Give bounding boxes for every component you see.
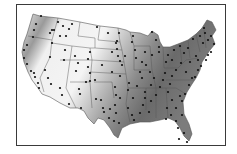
station-point <box>171 59 173 61</box>
station-point <box>127 89 129 91</box>
station-point <box>119 97 121 99</box>
station-point <box>40 15 42 17</box>
station-point <box>200 65 202 67</box>
station-point <box>165 61 167 63</box>
station-point <box>95 98 97 100</box>
station-point <box>128 82 130 84</box>
station-point <box>118 32 120 34</box>
station-point <box>64 49 66 51</box>
station-point <box>175 107 177 109</box>
station-point <box>210 35 212 37</box>
station-point <box>136 85 138 87</box>
station-point <box>61 94 63 96</box>
station-point <box>111 71 113 73</box>
station-point <box>197 59 199 61</box>
station-point <box>192 38 194 40</box>
station-point <box>127 107 129 109</box>
station-point <box>78 88 80 90</box>
station-point <box>23 49 25 51</box>
station-point <box>191 77 193 79</box>
station-point <box>87 58 89 60</box>
station-point <box>115 42 117 44</box>
station-point <box>59 87 61 89</box>
station-point <box>116 40 118 42</box>
station-point <box>118 122 120 124</box>
station-point <box>144 51 146 53</box>
station-point <box>96 26 98 28</box>
station-point <box>139 112 141 114</box>
station-point <box>178 138 180 140</box>
station-point <box>101 64 103 66</box>
station-point <box>141 61 143 63</box>
station-point <box>80 107 82 109</box>
station-point <box>132 97 134 99</box>
station-point <box>37 82 39 84</box>
station-point <box>94 79 96 81</box>
station-point <box>144 91 146 93</box>
station-point <box>114 104 116 106</box>
station-point <box>53 29 55 31</box>
station-point <box>171 99 173 101</box>
station-point <box>185 71 187 73</box>
station-point <box>63 59 65 61</box>
station-point <box>23 57 25 59</box>
station-point <box>51 42 53 44</box>
station-point <box>134 49 136 51</box>
station-point <box>26 44 28 46</box>
station-point <box>32 36 34 38</box>
station-point <box>195 55 197 57</box>
station-point <box>173 49 175 51</box>
station-point <box>124 55 126 57</box>
station-point <box>170 114 172 116</box>
station-point <box>132 35 134 37</box>
station-point <box>153 77 155 79</box>
station-point <box>169 83 171 85</box>
station-point <box>68 103 70 105</box>
station-point <box>150 84 152 86</box>
station-point <box>30 70 32 72</box>
station-point <box>155 39 157 41</box>
station-point <box>207 54 209 56</box>
station-point <box>87 66 89 68</box>
station-point <box>33 72 35 74</box>
station-point <box>149 71 151 73</box>
station-point <box>205 59 207 61</box>
station-point <box>183 132 185 134</box>
station-point <box>151 54 153 56</box>
station-point <box>145 64 147 66</box>
station-point <box>133 119 135 121</box>
station-point <box>65 35 67 37</box>
station-point <box>34 76 36 78</box>
station-point <box>131 114 133 116</box>
station-point <box>175 120 177 122</box>
station-point <box>85 81 87 83</box>
station-point <box>180 62 182 64</box>
station-point <box>107 32 109 34</box>
station-point <box>44 69 46 71</box>
station-point <box>164 72 166 74</box>
station-point <box>117 55 119 57</box>
station-point <box>158 51 160 53</box>
station-point <box>199 35 201 37</box>
station-point <box>139 71 141 73</box>
station-point <box>89 72 91 74</box>
station-point <box>114 86 116 88</box>
station-point <box>194 76 196 78</box>
station-point <box>103 111 105 113</box>
station-point <box>115 112 117 114</box>
station-point <box>187 47 189 49</box>
station-point <box>141 77 143 79</box>
station-point <box>57 21 59 23</box>
station-point <box>181 100 183 102</box>
station-point <box>150 100 152 102</box>
station-point <box>159 86 161 88</box>
station-point <box>167 91 169 93</box>
station-point <box>109 108 111 110</box>
station-point <box>113 120 115 122</box>
station-point <box>179 45 181 47</box>
station-point <box>204 32 206 34</box>
station-point <box>197 69 199 71</box>
station-point <box>203 27 205 29</box>
station-point <box>188 84 190 86</box>
station-point <box>210 51 212 53</box>
